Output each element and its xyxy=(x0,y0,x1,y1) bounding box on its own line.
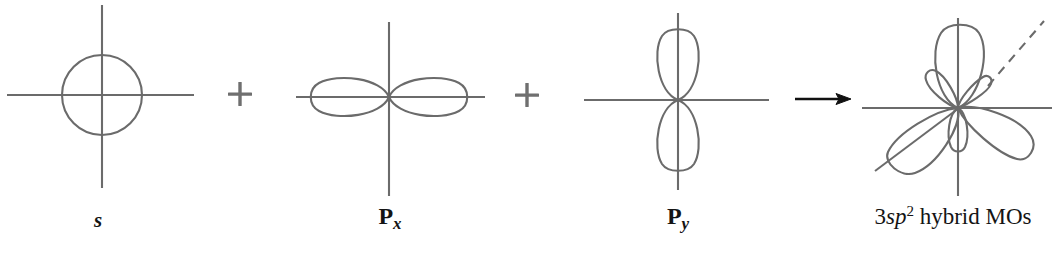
py-caption-main: P xyxy=(667,203,682,229)
plus-sign-2 xyxy=(515,83,539,107)
py-orbital-group xyxy=(584,13,769,190)
py-caption-subscript: y xyxy=(682,214,690,233)
orbital-hybridization-figure: s Px Py 3sp2 hybrid MOs xyxy=(0,0,1056,260)
px-orbital-caption: Px xyxy=(355,204,425,232)
px-caption-main: P xyxy=(378,203,393,229)
sp2-big-lobe-up xyxy=(935,25,984,108)
s-orbital-group xyxy=(7,5,194,188)
sp2-caption-text: hybrid MOs xyxy=(920,204,1032,229)
sp2-hybrid-caption: 3sp2 hybrid MOs xyxy=(838,204,1056,228)
sp2-dashed-diagonal-axis xyxy=(988,21,1044,86)
sp2-big-lobe-downleft xyxy=(887,108,958,174)
py-orbital-caption: Py xyxy=(643,204,713,232)
px-caption-subscript: x xyxy=(393,214,402,233)
sp2-caption-sp: sp xyxy=(886,204,906,229)
plus-sign-1 xyxy=(228,82,252,106)
sp2-big-lobe-downright xyxy=(958,107,1033,159)
sp2-caption-exponent: 2 xyxy=(906,203,914,219)
sp2-hybrid-group xyxy=(862,18,1052,196)
s-orbital-caption: s xyxy=(68,210,128,231)
reaction-arrow xyxy=(795,94,851,105)
px-orbital-group xyxy=(296,22,485,196)
sp2-caption-count: 3 xyxy=(874,204,886,229)
